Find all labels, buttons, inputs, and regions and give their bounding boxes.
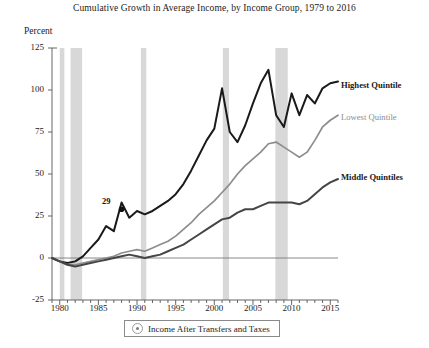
y-tick-label: 25: [16, 210, 44, 220]
y-tick-label: 75: [16, 126, 44, 136]
legend-label: Income After Transfers and Taxes: [148, 324, 270, 334]
y-tick-label: 0: [16, 252, 44, 262]
recession-band: [141, 48, 146, 300]
y-tick-label: 125: [16, 42, 44, 52]
x-tick-label: 2000: [194, 303, 234, 313]
data-point-annotation-29: 29: [102, 196, 111, 206]
x-tick-label: 1980: [40, 303, 80, 313]
recession-band: [223, 48, 229, 300]
series-label-lowest-quintile: Lowest Quintile: [341, 112, 397, 122]
legend[interactable]: Income After Transfers and Taxes: [124, 320, 280, 337]
x-tick-label: 1995: [156, 303, 196, 313]
target-circle-icon: [132, 323, 143, 334]
series-line-middle-quintiles: [52, 179, 338, 266]
x-tick-label: 2005: [233, 303, 273, 313]
annotation-marker: [119, 206, 125, 212]
x-tick-label: 2010: [272, 303, 312, 313]
series-line-highest-quintile: [52, 70, 338, 263]
series-label-middle-quintiles: Middle Quintiles: [341, 172, 403, 182]
chart-container: Cumulative Growth in Average Income, by …: [0, 0, 429, 348]
recession-band: [275, 48, 287, 300]
x-tick-label: 1985: [78, 303, 118, 313]
x-tick-label: 1990: [117, 303, 157, 313]
y-tick-label: 100: [16, 84, 44, 94]
series-label-highest-quintile: Highest Quintile: [341, 80, 401, 90]
x-tick-label: 2015: [310, 303, 350, 313]
y-tick-label: 50: [16, 168, 44, 178]
